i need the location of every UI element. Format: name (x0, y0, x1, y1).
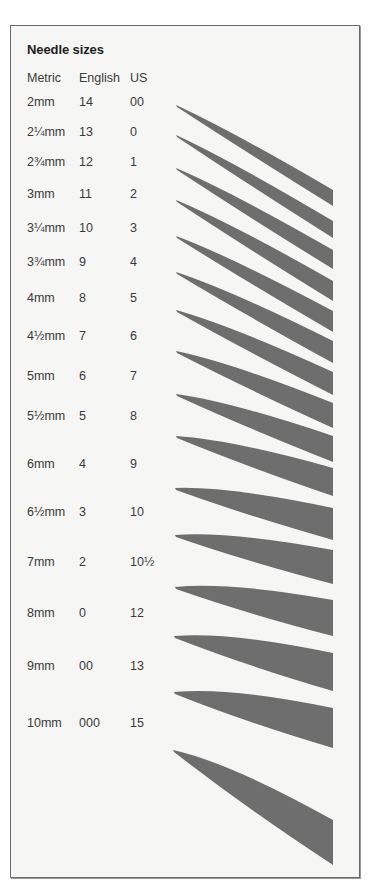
needle-10mm (173, 750, 333, 865)
needle-2mm (176, 105, 333, 206)
needle-8mm (174, 635, 333, 691)
needle-illustrations (0, 0, 379, 889)
needle-6mm (175, 534, 333, 584)
needle-6mm (175, 488, 333, 540)
needle-9mm (174, 691, 333, 748)
needle-7mm (175, 586, 333, 636)
